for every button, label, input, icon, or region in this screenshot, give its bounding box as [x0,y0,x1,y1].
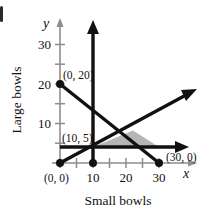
constraint-descending-segment [60,84,159,163]
constraint-ascending-arrowhead [181,89,197,101]
annotation-30-0: (30, 0) [166,151,197,164]
coordinate-plane-svg: y x 30 20 10 10 20 30 (0, 20) (10, 5) (0… [0,0,210,215]
y-tick-label-10: 10 [38,116,51,131]
y-axis-name: y [41,16,50,31]
y-axis-arrowhead [56,18,63,27]
x-axis-title: Small bowls [84,193,151,208]
constraint-vertical-arrowhead [87,20,99,34]
y-tick-label-30: 30 [38,37,51,52]
graph-figure: y x 30 20 10 10 20 30 (0, 20) (10, 5) (0… [0,0,210,215]
point-dot-0-20 [56,80,64,88]
annotation-0-20: (0, 20) [63,69,94,82]
point-dot-30-0 [155,159,163,167]
point-dot-0-0 [56,159,64,167]
annotation-10-5: (10, 5) [62,132,93,145]
x-tick-label-10: 10 [87,170,100,185]
x-tick-label-30: 30 [153,170,166,185]
y-tick-label-20: 20 [38,77,51,92]
y-axis-title: Large bowls [9,67,24,134]
page-edge-mark [0,6,3,22]
x-axis-name: x [182,166,190,181]
annotation-0-0: (0, 0) [44,172,69,185]
point-dot-10-0 [89,159,97,167]
x-tick-label-20: 20 [120,170,133,185]
